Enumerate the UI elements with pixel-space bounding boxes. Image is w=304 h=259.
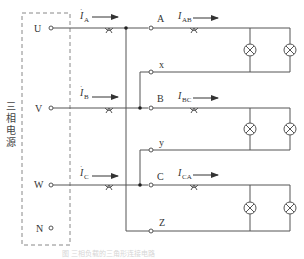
lamp-icon [244, 123, 256, 135]
terminal-a-label: A [157, 13, 165, 24]
svg-text:B: B [84, 93, 89, 101]
delta-wiring [126, 28, 149, 231]
phase-current-ica: I CA [177, 167, 218, 181]
lamp-icon [284, 44, 296, 56]
current-sensors [105, 28, 113, 190]
line-current-ic: I C · [79, 163, 118, 181]
svg-text:·: · [80, 163, 82, 171]
terminal-z-label: Z [159, 217, 165, 228]
svg-text:·: · [80, 83, 82, 91]
load-lines [153, 28, 290, 231]
lamp-icon [244, 44, 256, 56]
junction-dots [124, 26, 142, 187]
lamp-icon [244, 202, 256, 214]
svg-text:CA: CA [182, 173, 192, 181]
supply-lines [53, 28, 148, 185]
source-terminals [49, 26, 53, 230]
svg-text:电: 电 [6, 124, 16, 136]
line-current-ia: I A · [79, 6, 118, 24]
terminal-n-label: N [36, 223, 43, 234]
phase-current-ibc: I BC [177, 90, 218, 104]
lamp-icon [284, 123, 296, 135]
svg-text:C: C [84, 173, 89, 181]
terminal-x-label: x [159, 59, 164, 70]
svg-text:·: · [80, 6, 82, 14]
phase-current-iab: I AB [177, 10, 218, 24]
svg-text:源: 源 [6, 136, 16, 148]
phase-current-sensors [190, 28, 198, 190]
circuit-diagram: 三 相 电 源 U V W N I A · I B · I C [0, 0, 304, 259]
terminal-v-label: V [35, 103, 43, 114]
source-label: 三 相 电 源 [6, 101, 16, 148]
lamp-icon [284, 202, 296, 214]
load-terminals [149, 26, 153, 233]
svg-text:AB: AB [182, 16, 192, 24]
terminal-y-label: y [159, 137, 164, 148]
svg-text:BC: BC [182, 96, 192, 104]
svg-text:相: 相 [6, 112, 16, 124]
svg-text:三: 三 [6, 101, 16, 112]
line-current-ib: I B · [79, 83, 118, 101]
terminal-w-label: W [34, 179, 44, 190]
svg-text:A: A [84, 16, 89, 24]
terminal-b-label: B [157, 93, 164, 104]
lamps [244, 44, 296, 214]
figure-caption: 图 三相负载的三角形连接电路 [62, 249, 155, 258]
source-box [22, 13, 70, 245]
terminal-c-label: C [157, 171, 164, 182]
terminal-u-label: U [34, 23, 42, 34]
